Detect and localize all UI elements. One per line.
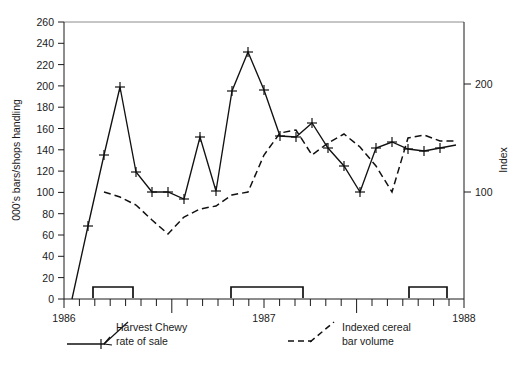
legend-indexed-cereal-label-line2: bar volume bbox=[342, 335, 394, 347]
legend-harvest-chewy-label-line1: Harvest Chewy bbox=[116, 321, 188, 333]
y-tick-100: 100 bbox=[36, 186, 54, 198]
y-tick-80: 80 bbox=[42, 208, 54, 220]
y-tick-140: 140 bbox=[36, 144, 54, 156]
legend-harvest-chewy-label-line2: rate of sale bbox=[116, 335, 168, 347]
y-tick-40: 40 bbox=[42, 250, 54, 262]
x-tick-1986: 1986 bbox=[52, 312, 76, 324]
y2-tick-200: 200 bbox=[475, 78, 493, 90]
y-tick-20: 20 bbox=[42, 272, 54, 284]
y-tick-60: 60 bbox=[42, 229, 54, 241]
y2-tick-100: 100 bbox=[475, 186, 493, 198]
legend-indexed-cereal-label-line1: Indexed cereal bbox=[342, 321, 411, 333]
y-tick-180: 180 bbox=[36, 101, 54, 113]
y-tick-120: 120 bbox=[36, 165, 54, 177]
chart-figure: 260 240 220 200 180 160 140 120 100 80 6… bbox=[0, 0, 521, 365]
x-tick-1987: 1987 bbox=[252, 312, 276, 324]
figure-background bbox=[0, 0, 521, 365]
y-tick-0: 0 bbox=[48, 293, 54, 305]
y-tick-240: 240 bbox=[36, 37, 54, 49]
y-tick-200: 200 bbox=[36, 80, 54, 92]
y-tick-260: 260 bbox=[36, 16, 54, 28]
left-axis-title: 000's bars/shops handling bbox=[10, 99, 22, 221]
y-tick-220: 220 bbox=[36, 59, 54, 71]
right-axis-title: Index bbox=[497, 146, 509, 172]
y-tick-160: 160 bbox=[36, 123, 54, 135]
x-tick-1988: 1988 bbox=[452, 312, 476, 324]
